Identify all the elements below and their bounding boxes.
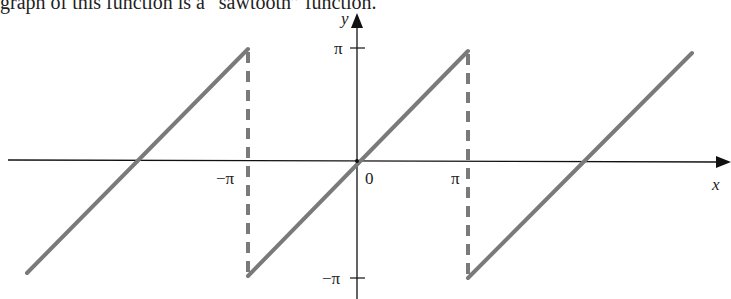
x-tick-label-neg-pi: −π (216, 170, 234, 187)
segment-right (468, 53, 692, 278)
origin-label: 0 (365, 170, 374, 187)
y-tick-label-pi: π (334, 40, 343, 57)
x-tick-label-pi: π (451, 170, 460, 187)
sawtooth-chart (0, 0, 731, 299)
y-axis-arrow-icon (351, 13, 363, 28)
x-axis-label: x (712, 176, 720, 193)
x-axis-arrow-icon (716, 156, 731, 168)
y-tick-label-neg-pi: −π (322, 270, 340, 287)
segment-middle (248, 51, 468, 276)
origin-point (355, 159, 359, 163)
y-axis-label: y (341, 10, 349, 27)
